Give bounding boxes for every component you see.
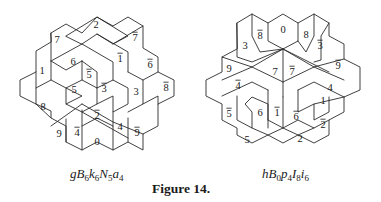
- tile-label: 7: [54, 34, 59, 45]
- tile-label: 3: [242, 40, 247, 51]
- tile-label: 9: [134, 127, 139, 138]
- tile-label: 3: [101, 83, 106, 94]
- tile-label: 6: [293, 111, 298, 122]
- name-subscript: 6: [304, 173, 309, 183]
- tile-label: 8: [257, 30, 262, 41]
- tile-label: 3: [317, 40, 322, 51]
- tile-label: 4: [235, 80, 241, 91]
- tile-label: 6: [70, 56, 75, 67]
- tile-label: 1: [117, 53, 122, 64]
- tile-label: 9: [226, 63, 231, 74]
- tile-label: 5: [226, 108, 231, 119]
- tile-label: 2: [93, 19, 98, 30]
- name-part: hB: [262, 166, 276, 181]
- tiling-right-name: hB0p4I8i6: [262, 166, 309, 183]
- tile-label: 4: [327, 82, 333, 93]
- tiling-left: [20, 17, 174, 150]
- tile-label: 9: [335, 60, 340, 71]
- tile-label: 4: [117, 121, 123, 132]
- tile-label: 5: [71, 84, 76, 95]
- tile-label: 8: [303, 29, 308, 40]
- tile-label: 6: [147, 59, 152, 70]
- figure-14: 2776161553388244990 0883399774415616252: [0, 0, 381, 202]
- tile-label: 8: [163, 82, 168, 93]
- tile-label: 9: [56, 128, 61, 139]
- tile-label: 2: [320, 119, 325, 130]
- tile-label: 1: [39, 65, 44, 76]
- name-part: gB: [70, 166, 84, 181]
- tile-label: 2: [297, 133, 302, 144]
- tile-label: 8: [40, 101, 45, 112]
- tile-label: 0: [94, 136, 99, 147]
- tile-label: 4: [74, 127, 80, 138]
- tile-label: 7: [289, 66, 294, 77]
- tile-label: 2: [94, 110, 99, 121]
- tile-label: 3: [133, 86, 138, 97]
- name-subscript: 4: [119, 173, 124, 183]
- tile-label: 6: [257, 107, 262, 118]
- tile-label: 5: [244, 134, 249, 145]
- tile-label: 5: [86, 69, 91, 80]
- tile-label: 0: [280, 24, 285, 35]
- tile-label: 1: [274, 107, 279, 118]
- tile-label: 1: [320, 95, 325, 106]
- tile-label: 7: [272, 66, 277, 77]
- tiling-left-name: gB6k6N5a4: [70, 166, 123, 183]
- figure-caption: Figure 14.: [152, 181, 210, 197]
- name-part: N: [99, 166, 108, 181]
- tile-label: 7: [132, 32, 137, 43]
